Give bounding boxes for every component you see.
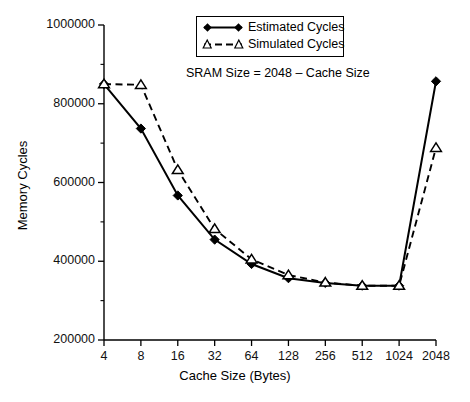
- marker-open-triangle: [172, 165, 183, 174]
- y-axis-title: Memory Cycles: [15, 126, 30, 246]
- marker-filled-diamond: [431, 77, 440, 86]
- y-tick-label: 1000000: [46, 17, 95, 31]
- legend-label-estimated: Estimated Cycles: [246, 20, 345, 35]
- legend-marker-filled-diamond: [200, 20, 246, 35]
- marker-open-triangle: [283, 270, 294, 279]
- legend-item-estimated: Estimated Cycles: [200, 19, 340, 36]
- marker-open-triangle: [431, 143, 442, 152]
- chart-figure: 2000004000006000008000001000000 48163264…: [0, 0, 470, 402]
- data-series: [99, 77, 442, 291]
- x-axis-title: Cache Size (Bytes): [0, 368, 470, 383]
- legend-marker-open-triangle: [200, 37, 246, 52]
- chart-annotation: SRAM Size = 2048 – Cache Size: [186, 66, 370, 80]
- chart-legend: Estimated Cycles Simulated Cycles: [196, 16, 344, 57]
- x-tick-label: 2048: [406, 349, 466, 363]
- legend-label-simulated: Simulated Cycles: [246, 37, 345, 52]
- series-line-estimated: [104, 81, 436, 285]
- y-tick-label: 600000: [53, 175, 95, 189]
- y-tick-label: 200000: [53, 332, 95, 346]
- y-tick-label: 800000: [53, 96, 95, 110]
- marker-open-triangle: [209, 224, 220, 233]
- y-tick-label: 400000: [53, 253, 95, 267]
- legend-item-simulated: Simulated Cycles: [200, 36, 340, 53]
- series-line-simulated: [104, 84, 436, 286]
- marker-open-triangle: [135, 80, 146, 89]
